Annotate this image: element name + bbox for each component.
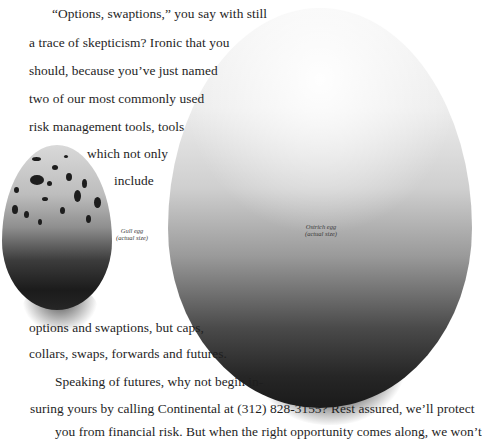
gull-egg-caption-title: Gull egg xyxy=(112,227,152,234)
body-text-line: should, because you’ve just named xyxy=(29,63,218,79)
body-text-line: a trace of skepticism? Ironic that you xyxy=(29,35,229,51)
body-text-line: risk management tools, tools xyxy=(29,119,184,135)
gull-egg-caption: Gull egg (actual size) xyxy=(112,227,152,241)
body-text-line: suring yours by calling Continental at (… xyxy=(30,401,474,417)
ostrich-egg-caption: Ostrich egg (actual size) xyxy=(296,223,346,237)
body-text-line: “Options, swaptions,” you say with still xyxy=(52,6,267,22)
gull-egg-image xyxy=(2,145,112,310)
body-text-line: collars, swaps, forwards and futures. xyxy=(29,346,227,362)
gull-egg-caption-size: (actual size) xyxy=(112,234,152,241)
ostrich-egg-caption-title: Ostrich egg xyxy=(296,223,346,230)
ostrich-egg-caption-size: (actual size) xyxy=(296,230,346,237)
body-text-line: which not only xyxy=(87,146,168,162)
body-text-line: you from financial risk. But when the ri… xyxy=(55,424,482,440)
body-text-line: two of our most commonly used xyxy=(29,91,204,107)
body-text-line: options and swaptions, but caps, xyxy=(29,320,204,336)
body-text-line: Speaking of futures, why not begin in- xyxy=(55,374,263,390)
body-text-line: include xyxy=(114,173,154,189)
